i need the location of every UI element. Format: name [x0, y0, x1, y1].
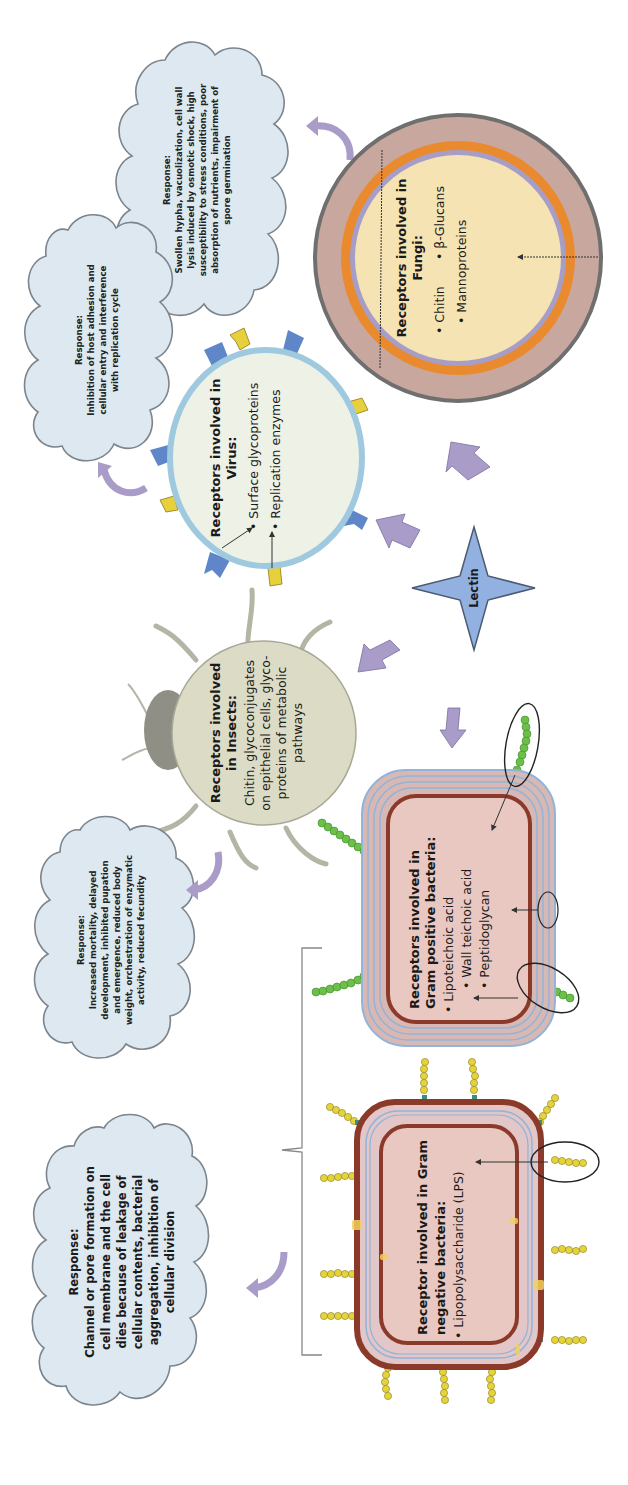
virus-item-enzymes: • Replication enzymes — [268, 390, 283, 530]
gram-negative-title-2: negative bacteria: — [433, 1201, 448, 1335]
insect-response-line: development, inhibited pupation — [100, 860, 110, 1019]
virus-response-title: Response: — [74, 315, 84, 365]
bacteria-response-line: cellular contents, bacterial — [131, 1175, 145, 1350]
arrow-to-fungi-icon — [446, 442, 490, 480]
fungi-response-line: spore germination — [222, 135, 232, 224]
gram-positive-item-wta: • Wall teichoic acid — [459, 869, 474, 989]
bacteria-response-cloud: Response: Channel or pore formation on c… — [32, 1115, 208, 1405]
gram-negative-item-lps: • Lipopolysaccharide (LPS) — [451, 1171, 466, 1339]
insect-body-line: Chitin, glycoconjugates — [242, 660, 257, 806]
gram-positive-item-peptidoglycan: • Peptidoglycan — [477, 890, 492, 989]
virus-particle: Receptors involved in Virus: • Surface g… — [150, 328, 368, 586]
bacteria-response-line: dies because of leakage of — [115, 1174, 129, 1348]
fungi-response-line: susceptibility to stress conditions, poo… — [198, 83, 208, 276]
insect-response-line: Increased mortality, delayed — [88, 871, 98, 1010]
fungi-item-chitin: • Chitin — [432, 286, 447, 334]
bacteria-response-title: Response: — [67, 1228, 81, 1295]
bacteria-bracket — [282, 948, 322, 1355]
fungi-response-line: Swollen hypha, vacuolization, cell wall — [174, 87, 184, 274]
fungi-title-2: Fungi: — [410, 235, 425, 281]
fungi-response-line: absorption of nutrients, impairment of — [210, 86, 220, 274]
bacteria-response-line: aggregation, inhibition of — [147, 1178, 161, 1345]
bacteria-response-line: cell membrane and the cell — [99, 1174, 113, 1350]
lectin-star: Lectin — [412, 527, 535, 650]
arrow-to-insect-icon — [358, 640, 400, 672]
virus-response-line: cellular entry and interference — [98, 265, 108, 414]
insect-title: Receptors involved — [208, 663, 223, 804]
gram-positive-title-2: Gram positive bacteria: — [423, 837, 438, 1010]
insect-response-cloud: Response: Increased mortality, delayed d… — [35, 817, 195, 1059]
insect-body-line: on epithelial cells, glyco- — [258, 655, 273, 810]
virus-response-line: with replication cycle — [110, 288, 120, 392]
lectin-receptor-diagram: Response: Swollen hypha, vacuolization, … — [0, 0, 628, 1485]
bacteria-response-line: cellular division — [163, 1211, 177, 1314]
fungi-response-line: lysis induced by osmotic shock, high — [186, 91, 196, 268]
insect-response-line: activity, reduced fecundity — [136, 875, 146, 1005]
lectin-label: Lectin — [467, 568, 481, 608]
arrowhead-icon — [246, 1278, 258, 1298]
insect-response-title: Response: — [76, 915, 86, 965]
fungi-title: Receptors involved in — [394, 179, 409, 338]
gram-positive-item-lta: • Lipoteichoic acid — [441, 897, 456, 1013]
bacteria-response-line: Channel or pore formation on — [83, 1166, 97, 1358]
curved-arrow-icon — [254, 1252, 284, 1288]
curved-arrow-icon — [314, 126, 350, 160]
fungi-item-glucans: • β-Glucans — [432, 186, 447, 260]
virus-title: Receptors involved in — [208, 379, 223, 538]
arrow-to-virus-icon — [376, 514, 420, 548]
insect-body-line: pathways — [290, 703, 305, 763]
virus-response-cloud: Response: Inhibition of host adhesion an… — [25, 215, 173, 461]
virus-item-glycoproteins: • Surface glycoproteins — [246, 383, 261, 530]
fungi-response-title: Response: — [162, 155, 172, 205]
virus-title-2: Virus: — [224, 437, 239, 480]
arrow-to-gram-positive-icon — [440, 708, 466, 748]
curved-arrow-icon — [104, 470, 146, 493]
gram-negative-bacterium: Receptor involved in Gram negative bacte… — [320, 1058, 599, 1403]
virus-response-line: Inhibition of host adhesion and — [86, 264, 96, 415]
arrowhead-icon — [306, 116, 318, 136]
insect-response-line: and emergence, reduced body — [112, 866, 122, 1014]
fungi-item-mannoproteins: • Mannoproteins — [454, 220, 469, 324]
insect-response-line: weight, orchestration of enzymatic — [124, 855, 134, 1025]
insect-title-2: in Insects: — [224, 695, 239, 771]
gram-positive-title: Receptors involved in — [407, 850, 422, 1009]
gram-negative-title: Receptor involved in Gram — [415, 1140, 430, 1335]
insect-body-line: proteins of metabolic — [274, 666, 289, 799]
fungi-cell: Receptors involved in Fungi: • Chitin • … — [315, 115, 601, 401]
